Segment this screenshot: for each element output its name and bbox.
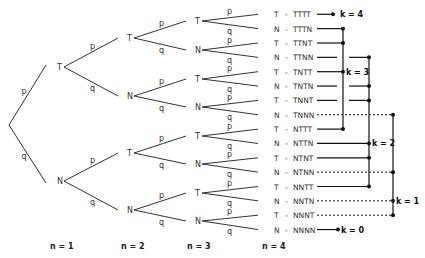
tree-node-success: T <box>126 149 132 158</box>
leaf-node: T <box>273 96 279 105</box>
group-label-k1: k = 1 <box>396 197 420 206</box>
leaf-sequence: NNTT <box>293 183 314 192</box>
tree-node-success: T <box>194 17 200 26</box>
edge-label: p <box>227 7 232 16</box>
leaf-separator: - <box>285 111 288 120</box>
leaf-node: N <box>274 82 280 91</box>
edge-label: p <box>227 93 232 102</box>
level-label: n = 4 <box>262 242 286 251</box>
edge-label: q <box>22 152 27 161</box>
leaf-sequence: NTNT <box>293 154 314 163</box>
edge-label: q <box>227 227 232 236</box>
leaf-separator: - <box>285 25 288 34</box>
leaf-node: T <box>273 125 279 134</box>
leaf-separator: - <box>285 183 288 192</box>
leaf-sequence: TNTT <box>292 68 313 77</box>
leaf-sequence: TTNN <box>292 53 313 62</box>
tree-node-failure: N <box>57 177 63 186</box>
leaf-sequence: TTTN <box>292 25 312 34</box>
leaf-sequence: NNTN <box>293 197 314 206</box>
edge-label: q <box>227 113 232 122</box>
leaf-separator: - <box>285 125 288 134</box>
tree-edge <box>9 125 46 183</box>
group-label-k4: k = 4 <box>340 10 364 19</box>
leaf-separator: - <box>285 68 288 77</box>
leaf-separator: - <box>285 139 288 148</box>
leaf-node: N <box>274 197 280 206</box>
edge-label: q <box>90 198 95 207</box>
tree-node-failure: N <box>195 160 201 169</box>
edge-label: p <box>159 19 164 28</box>
leaf-node: N <box>274 53 280 62</box>
edge-label: p <box>90 42 95 51</box>
leaf-node: N <box>274 226 280 235</box>
leaf-node: T <box>273 39 279 48</box>
tree-node-failure: N <box>195 217 201 226</box>
leaf-node: T <box>273 183 279 192</box>
leaf-separator: - <box>285 10 288 19</box>
leaf-node: N <box>274 25 280 34</box>
edge-label: p <box>159 77 164 86</box>
leaf-separator: - <box>285 96 288 105</box>
leaf-node: T <box>273 211 279 220</box>
edge-label: p <box>22 87 27 96</box>
leaf-sequence: TTTT <box>292 10 311 19</box>
leaf-sequence: NTTT <box>293 125 313 134</box>
level-label: n = 3 <box>187 242 211 251</box>
tree-node-failure: N <box>195 46 201 55</box>
leaf-separator: - <box>285 211 288 220</box>
edge-label: p <box>227 36 232 45</box>
edge-label: q <box>159 104 164 113</box>
tree-node-success: T <box>194 132 200 141</box>
tree-node-failure: N <box>195 103 201 112</box>
leaf-sequence: NNNN <box>293 226 315 235</box>
leaf-node: N <box>274 111 280 120</box>
tree-node-success: T <box>194 75 200 84</box>
leaf-separator: - <box>285 168 288 177</box>
leaf-separator: - <box>285 53 288 62</box>
leaf-separator: - <box>285 197 288 206</box>
leaf-separator: - <box>285 82 288 91</box>
leaf-node: T <box>273 68 279 77</box>
tree-node-success: T <box>56 63 62 72</box>
group-label-k2: k = 2 <box>372 139 395 148</box>
leaf-node: T <box>273 154 279 163</box>
probability-tree-diagram: pqTpqNpqTpqNpqTpqNpqTpqNpqTpqNpqTpqNpqTp… <box>0 0 425 258</box>
leaf-node: T <box>273 10 279 19</box>
leaf-sequence: TTNT <box>292 39 313 48</box>
edge-label: p <box>227 64 232 73</box>
leaf-separator: - <box>285 39 288 48</box>
edge-label: q <box>227 56 232 65</box>
leaf-node: N <box>274 168 280 177</box>
leaf-sequence: NNNT <box>293 211 315 220</box>
edge-label: p <box>227 150 232 159</box>
tree-node-failure: N <box>127 206 133 215</box>
edge-label: q <box>159 161 164 170</box>
level-label: n = 2 <box>121 242 145 251</box>
tree-node-success: T <box>194 189 200 198</box>
edge-label: q <box>159 218 164 227</box>
edge-label: p <box>159 191 164 200</box>
edge-label: q <box>227 27 232 36</box>
edge-label: p <box>227 207 232 216</box>
tree-edge <box>9 65 46 125</box>
edge-label: q <box>159 46 164 55</box>
leaf-sequence: NTTN <box>293 139 313 148</box>
edge-label: p <box>90 156 95 165</box>
leaf-separator: - <box>285 154 288 163</box>
leaf-node: N <box>274 139 280 148</box>
leaf-sequence: TNNT <box>292 96 314 105</box>
leaf-sequence: TNNN <box>292 111 314 120</box>
tree-node-success: T <box>126 34 132 43</box>
edge-label: q <box>90 84 95 93</box>
leaf-sequence: TNTN <box>292 82 313 91</box>
group-label-k3: k = 3 <box>346 68 369 77</box>
level-label: n = 1 <box>50 242 74 251</box>
leaf-separator: - <box>285 226 288 235</box>
edge-label: p <box>227 122 232 131</box>
tree-node-failure: N <box>127 92 133 101</box>
leaf-sequence: NTNN <box>293 168 314 177</box>
group-label-k0: k = 0 <box>341 226 365 235</box>
edge-label: p <box>227 179 232 188</box>
edge-label: p <box>159 134 164 143</box>
